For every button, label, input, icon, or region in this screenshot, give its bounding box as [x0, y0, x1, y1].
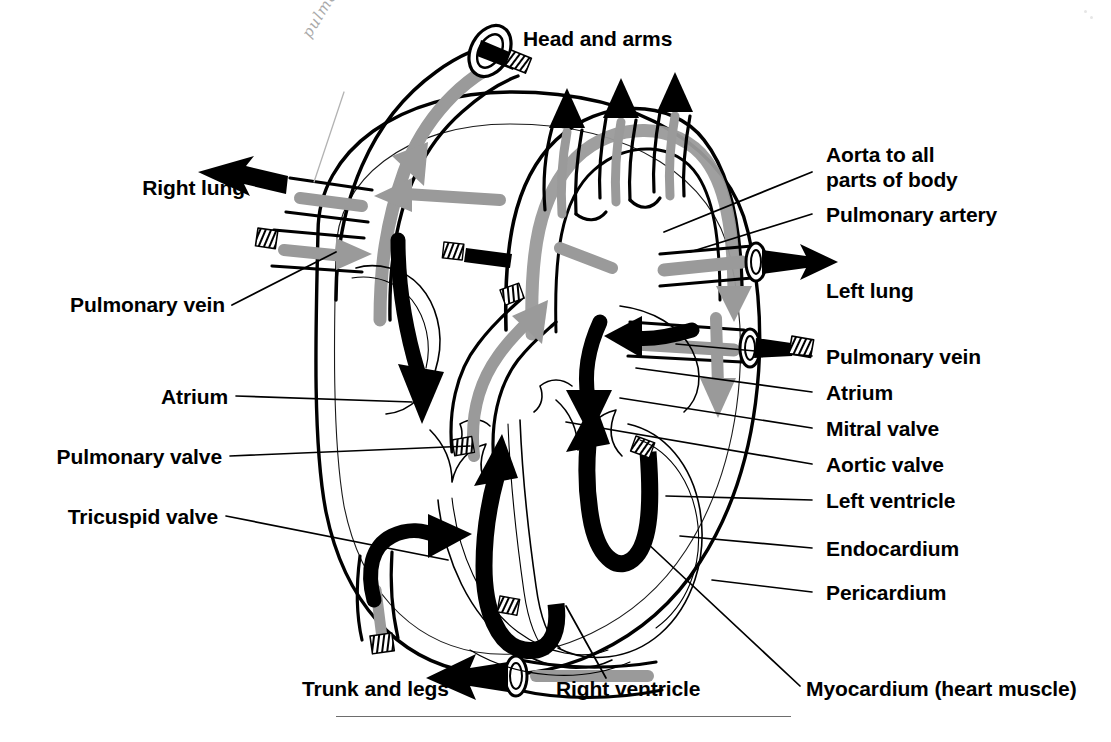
left-common-carotid-arrow [603, 78, 639, 118]
label-atrium-left: Atrium [10, 384, 228, 409]
vessel-gray-flow [664, 262, 742, 270]
label-aorta-line1: Aorta to all [826, 142, 934, 167]
label-tricuspid-valve: Tricuspid valve [10, 504, 218, 529]
label-aortic-valve: Aortic valve [826, 452, 944, 477]
label-atrium-right: Atrium [826, 380, 893, 405]
label-endocardium: Endocardium [826, 536, 959, 561]
caption-rule [336, 716, 791, 717]
label-right-ventricle: Right ventricle [556, 676, 700, 701]
upper-return-flow-gray [406, 194, 500, 200]
label-mitral-valve: Mitral valve [826, 416, 939, 441]
label-pulmonary-valve: Pulmonary valve [10, 444, 222, 469]
leader-pericardium [712, 580, 812, 592]
label-pulmonary-vein-right: Pulmonary vein [826, 344, 981, 369]
descending-flow-gray [716, 318, 718, 386]
diagram-page: pulmonary artery Head and arms Right lun… [0, 0, 1111, 742]
leader-myocardium [646, 542, 800, 686]
left-subclavian-arrow [657, 72, 693, 112]
label-trunk-and-legs: Trunk and legs [302, 676, 449, 701]
r-art-gray-flow [300, 198, 362, 206]
heart-diagram-svg [0, 0, 1111, 742]
label-pulmonary-vein-left: Pulmonary vein [10, 292, 225, 317]
label-left-ventricle: Left ventricle [826, 488, 955, 513]
label-right-lung: Right lung [30, 175, 245, 200]
scan-speckle [1084, 10, 1087, 13]
label-myocardium: Myocardium (heart muscle) [806, 676, 1077, 701]
label-left-lung: Left lung [826, 278, 914, 303]
cut-mark-upper-left [442, 242, 464, 260]
caption-cut-off [430, 729, 760, 742]
cut-mark-right-ventricle [497, 596, 519, 615]
label-aorta-line2: parts of body [826, 167, 958, 192]
label-pericardium: Pericardium [826, 580, 946, 605]
label-head-and-arms: Head and arms [523, 26, 672, 51]
label-pulmonary-artery: Pulmonary artery [826, 202, 997, 227]
scan-speckle [1090, 16, 1093, 19]
